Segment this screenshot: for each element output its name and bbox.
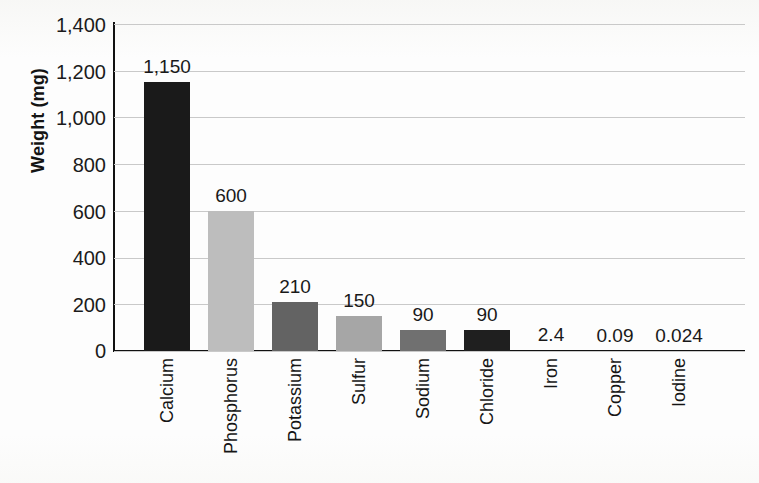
x-axis-label: Chloride: [478, 358, 496, 425]
bar: [336, 316, 382, 351]
bar: [208, 211, 254, 351]
bar-slot: 1,150: [135, 24, 199, 351]
y-tick-label: 1,000: [30, 108, 106, 128]
x-label-slot: Iron: [519, 352, 583, 483]
bar-slot: 90: [391, 24, 455, 351]
x-axis-label: Iodine: [670, 358, 688, 407]
bar-value-label: 150: [327, 291, 391, 310]
y-tick-label: 1,200: [30, 62, 106, 82]
y-tick-label: 200: [30, 295, 106, 315]
bar-value-label: 90: [391, 305, 455, 324]
y-axis-tick-labels: 1,400 1,200 1,000 800 600 400 200 0: [28, 0, 106, 483]
x-axis-label: Phosphorus: [222, 358, 240, 454]
x-axis-category-labels: CalciumPhosphorusPotassiumSulfurSodiumCh…: [114, 352, 745, 483]
bar-slot: 210: [263, 24, 327, 351]
bar-slot: 0.024: [647, 24, 711, 351]
bar-value-label: 0.09: [583, 326, 647, 345]
bar-slot: 600: [199, 24, 263, 351]
bar-value-label: 2.4: [519, 325, 583, 344]
x-label-slot: Iodine: [647, 352, 711, 483]
x-label-slot: Potassium: [263, 352, 327, 483]
bar-slot: 90: [455, 24, 519, 351]
y-tick-label: 1,400: [30, 15, 106, 35]
x-label-slot: Chloride: [455, 352, 519, 483]
bar: [400, 330, 446, 351]
bar: [144, 82, 190, 351]
x-axis-label: Sulfur: [350, 358, 368, 405]
x-axis-label: Sodium: [414, 358, 432, 419]
bar-slot: 2.4: [519, 24, 583, 351]
chart-screenshot: Weight (mg) 1,400 1,200 1,000 800 600 40…: [0, 0, 759, 483]
x-axis-label: Calcium: [158, 358, 176, 423]
bar-value-label: 600: [199, 186, 263, 205]
bar: [464, 330, 510, 351]
y-tick-label: 0: [30, 341, 106, 361]
bar-slot: 0.09: [583, 24, 647, 351]
plot-area: 1,15060021015090902.40.090.024: [114, 24, 745, 351]
y-tick-label: 400: [30, 248, 106, 268]
x-label-slot: Copper: [583, 352, 647, 483]
x-axis-label: Potassium: [286, 358, 304, 442]
x-label-slot: Sodium: [391, 352, 455, 483]
bar: [272, 302, 318, 351]
x-label-slot: Phosphorus: [199, 352, 263, 483]
bar-value-label: 90: [455, 305, 519, 324]
x-label-slot: Calcium: [135, 352, 199, 483]
x-axis-label: Iron: [542, 358, 560, 389]
bar-value-label: 210: [263, 277, 327, 296]
y-tick-label: 600: [30, 202, 106, 222]
x-axis-label: Copper: [606, 358, 624, 417]
bar-slot: 150: [327, 24, 391, 351]
bar-value-label: 0.024: [647, 326, 711, 345]
y-tick-label: 800: [30, 155, 106, 175]
bar-value-label: 1,150: [135, 57, 199, 76]
x-label-slot: Sulfur: [327, 352, 391, 483]
